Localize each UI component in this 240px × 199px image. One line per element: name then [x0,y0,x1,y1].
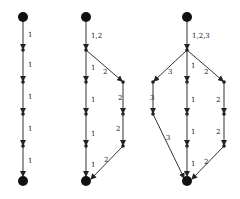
sink-node [81,176,91,186]
node [121,144,125,148]
edge-label: 1 [28,157,32,165]
node [121,80,125,84]
edge-label: 1 [191,160,195,168]
edge-label: 1 [91,64,95,72]
node [185,112,189,116]
edge-label: 2 [216,96,220,104]
node [84,48,88,52]
diagram-single-path: 1 1 1 1 1 [18,12,32,186]
edge-label: 1 [91,130,95,138]
edge-label: 1 [91,161,95,169]
edge-label: 1 [91,96,95,104]
edge-label: 1 [191,62,195,70]
edge-label: 1,2 [91,32,102,40]
edge-label: 3 [150,94,154,102]
node [121,112,125,116]
path-diagrams: 1 1 1 1 1 1,2 1 1 1 1 2 2 2 2 [0,0,240,199]
node [21,144,25,148]
node [185,48,189,52]
node [222,80,226,84]
node [21,80,25,84]
node [21,48,25,52]
node [151,80,155,84]
diagram-three-paths: 1,2,3 3 3 3 1 1 1 1 2 2 2 2 [150,12,226,186]
source-node [182,12,192,22]
edge-label: 2 [216,128,220,136]
edge-label: 1 [28,125,32,133]
edge-label: 1 [28,61,32,69]
node [84,80,88,84]
edge-label: 1 [191,128,195,136]
sink-node [18,176,28,186]
node [151,112,155,116]
node [222,144,226,148]
node [21,112,25,116]
node [185,144,189,148]
edge-label: 1 [28,93,32,101]
edge-label: 3 [168,68,172,76]
edge-label: 2 [118,94,122,102]
node [84,112,88,116]
sink-node [182,176,192,186]
edge-label: 2 [116,125,120,133]
source-node [18,12,28,22]
edge-label: 3 [166,134,170,142]
edge-label: 2 [204,158,208,166]
edge-label: 2 [103,68,107,76]
node [84,144,88,148]
source-node [81,12,91,22]
edge-label: 2 [104,156,108,164]
node [222,112,226,116]
edge-label: 1,2,3 [192,32,210,40]
node [185,80,189,84]
edge-label: 1 [28,31,32,39]
edge-label: 1 [191,96,195,104]
edge-label: 2 [204,68,208,76]
diagram-two-paths: 1,2 1 1 1 1 2 2 2 2 [81,12,125,186]
